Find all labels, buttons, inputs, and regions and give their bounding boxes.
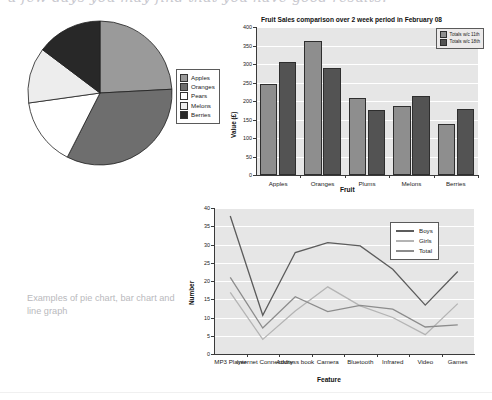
- bar-chart-legend: Totals w/c 11thTotals w/c 18th: [436, 28, 484, 49]
- bar-chart-y-tick-label: 0: [232, 172, 252, 178]
- line-chart-legend-line: [396, 240, 414, 242]
- pie-legend-label: Oranges: [191, 84, 215, 90]
- line-chart-legend-label: Girls: [419, 238, 432, 244]
- line-chart-legend-line: [396, 230, 414, 232]
- bar-chart-legend-item-1: Totals w/c 11th: [440, 31, 480, 39]
- bar-chart-y-tick-label: 50: [232, 154, 252, 160]
- bar-chart-y-tick-label: 350: [232, 43, 252, 49]
- pie-slice-apples: [100, 21, 172, 93]
- line-chart-legend-label: Total: [419, 248, 432, 254]
- pie-chart-legend: ApplesOrangesPearsMelonsBerries: [176, 69, 220, 124]
- line-chart-x-axis: [214, 354, 475, 355]
- pie-legend-item-berries: Berries: [180, 111, 215, 120]
- bar-chart-legend-label: Totals w/c 11th: [450, 33, 480, 38]
- bar-chart-legend-item-2: Totals w/c 18th: [440, 39, 480, 47]
- bar-oranges-series1: [304, 41, 322, 175]
- line-chart-legend-label: Boys: [419, 228, 433, 234]
- pie-legend-item-apples: Apples: [180, 73, 215, 82]
- bar-chart-x-axis-title: Fruit: [340, 186, 355, 193]
- line-chart-y-tick-label: 5: [190, 333, 210, 339]
- bar-chart-y-axis: [256, 27, 257, 176]
- pie-legend-swatch: [180, 102, 188, 110]
- line-chart: 0510152025303540MP3 PlayerInternet Conne…: [186, 200, 490, 390]
- bar-plums-series2: [368, 110, 386, 175]
- bar-chart-x-tick-label: Berries: [428, 180, 484, 187]
- line-chart-y-tick-label: 25: [190, 260, 210, 266]
- line-chart-y-axis: [214, 208, 215, 355]
- pie-legend-swatch: [180, 111, 188, 119]
- figure-caption: Examples of pie chart, bar chart and lin…: [27, 292, 177, 318]
- bar-chart-title: Fruit Sales comparison over 2 week perio…: [261, 16, 442, 23]
- bar-apples-series2: [279, 62, 297, 175]
- line-chart-legend-item-girls: Girls: [396, 236, 433, 246]
- bar-chart-legend-label: Totals w/c 18th: [450, 40, 480, 45]
- pie-legend-item-melons: Melons: [180, 101, 215, 110]
- cropped-body-text: a few days you may find that you have go…: [0, 0, 492, 9]
- line-chart-legend-item-total: Total: [396, 246, 433, 256]
- pie-legend-label: Apples: [191, 75, 210, 81]
- bar-melons-series1: [393, 106, 411, 175]
- line-chart-y-tick-label: 10: [190, 315, 210, 321]
- line-chart-y-tick-label: 35: [190, 223, 210, 229]
- bar-apples-series1: [260, 84, 278, 175]
- line-chart-legend: BoysGirlsTotal: [390, 222, 439, 260]
- pie-legend-item-pears: Pears: [180, 92, 215, 101]
- bar-chart-y-axis-title: Value (£): [230, 112, 237, 138]
- page-bottom-rule: [0, 392, 492, 393]
- pie-chart: [27, 18, 173, 168]
- bar-chart-x-axis: [256, 175, 479, 176]
- pie-legend-swatch: [180, 92, 188, 100]
- pie-legend-item-oranges: Oranges: [180, 82, 215, 91]
- pie-legend-label: Berries: [191, 112, 211, 118]
- page-canvas: a few days you may find that you have go…: [0, 0, 492, 400]
- bar-chart-legend-swatch: [440, 39, 447, 46]
- cropped-body-text-label: a few days you may find that you have go…: [8, 0, 387, 5]
- line-chart-x-axis-title: Feature: [317, 376, 341, 383]
- bar-chart-y-tick-label: 200: [232, 98, 252, 104]
- bar-berries-series1: [438, 124, 456, 175]
- pie-legend-swatch: [180, 83, 188, 91]
- pie-legend-label: Pears: [191, 93, 207, 99]
- bar-chart-legend-swatch: [440, 31, 447, 38]
- bar-chart-y-tick-label: 250: [232, 80, 252, 86]
- bar-berries-series2: [457, 109, 475, 175]
- pie-legend-swatch: [180, 74, 188, 82]
- line-chart-legend-line: [396, 250, 414, 252]
- bar-chart-y-tick-label: 300: [232, 61, 252, 67]
- bar-chart: Fruit Sales comparison over 2 week perio…: [228, 16, 490, 196]
- line-chart-x-tick-label: Games: [432, 358, 484, 365]
- bar-melons-series2: [412, 96, 430, 175]
- line-chart-y-axis-title: Number: [188, 281, 195, 305]
- line-chart-y-tick-label: 40: [190, 205, 210, 211]
- bar-oranges-series2: [323, 68, 341, 175]
- bar-chart-y-tick-label: 400: [232, 24, 252, 30]
- pie-chart-svg: [27, 18, 173, 168]
- line-chart-y-tick-label: 30: [190, 242, 210, 248]
- pie-legend-label: Melons: [191, 103, 211, 109]
- bar-plums-series1: [349, 98, 367, 175]
- line-chart-y-tick-label: 0: [190, 351, 210, 357]
- line-chart-legend-item-boys: Boys: [396, 226, 433, 236]
